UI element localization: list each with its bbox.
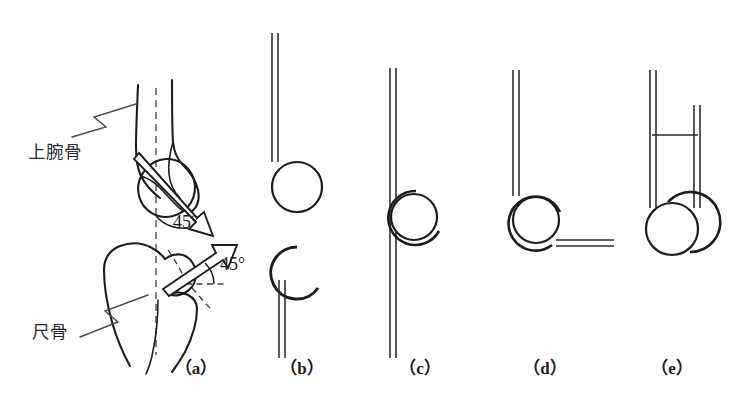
label-ulna: 尺骨 — [32, 322, 68, 342]
panel-d-humeral-head-circle — [513, 197, 559, 243]
panel-e-humeral-head-circle — [646, 203, 698, 255]
figure-background — [0, 0, 731, 410]
panel-label-e: （e） — [651, 358, 693, 378]
panel-label-b: （b） — [280, 358, 323, 378]
label-humerus: 上腕骨 — [28, 142, 82, 162]
panel-label-a: （a） — [175, 358, 218, 378]
elbow-range-of-motion-figure: 上腕骨 尺骨 45° 45° — [0, 0, 731, 410]
panel-label-c: （c） — [399, 358, 441, 378]
panel-c-humeral-head-circle — [391, 194, 437, 240]
angle-label-ulna: 45° — [220, 254, 245, 274]
panel-label-d: （d） — [523, 358, 566, 378]
angle-label-humerus: 45° — [173, 212, 198, 232]
figure-root: 上腕骨 尺骨 45° 45° — [0, 0, 731, 410]
panel-b-humeral-head-circle — [272, 162, 322, 212]
